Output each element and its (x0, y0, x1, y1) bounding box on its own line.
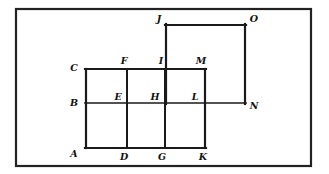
figure-border (16, 9, 311, 166)
vertex-label-b: B (69, 97, 78, 108)
vertex-label-group: ABCDEFGHIJKLMNO (69, 13, 259, 162)
vertex-label-l: L (191, 91, 199, 102)
segment-group (85, 24, 246, 148)
vertex-label-k: K (198, 151, 208, 162)
vertex-label-m: M (195, 55, 207, 66)
vertex-label-o: O (250, 13, 259, 24)
vertex-label-f: F (120, 55, 129, 66)
vertex-label-e: E (113, 91, 122, 102)
vertex-label-i: I (158, 55, 164, 66)
vertex-label-a: A (69, 148, 77, 159)
geometry-diagram: ABCDEFGHIJKLMNO (0, 0, 329, 174)
vertex-label-d: D (119, 151, 129, 162)
vertex-label-n: N (249, 100, 259, 111)
vertex-label-g: G (158, 151, 166, 162)
vertex-label-j: J (155, 13, 162, 24)
vertex-label-h: H (150, 91, 161, 102)
figure-canvas: ABCDEFGHIJKLMNO (0, 0, 329, 174)
vertex-label-c: C (70, 62, 78, 73)
